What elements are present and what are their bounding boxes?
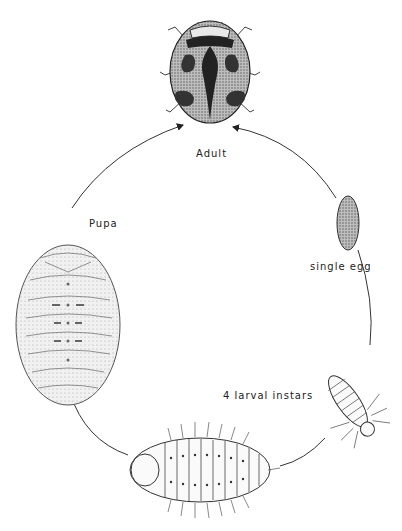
pupa-illustration: [16, 245, 120, 405]
label-larval-instars: 4 larval instars: [223, 390, 313, 401]
late-larva-illustration: [130, 422, 280, 518]
adult-beetle-illustration: [160, 21, 260, 123]
arrow-egg-to-adult: [233, 127, 336, 198]
arrow-pupa-to-adult: [72, 125, 183, 208]
life-cycle-diagram: Adult single egg 4 larval instars Pupa: [0, 0, 402, 531]
early-larva-illustration: [306, 359, 396, 452]
arc-larva-to-late-larva: [280, 438, 325, 466]
label-pupa: Pupa: [89, 218, 118, 229]
label-adult: Adult: [196, 148, 227, 159]
egg-illustration: [337, 196, 359, 250]
label-single-egg: single egg: [310, 261, 372, 272]
